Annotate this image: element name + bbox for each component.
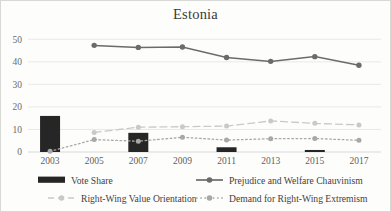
- x-tick-label: 2011: [217, 156, 236, 166]
- y-tick-label: 20: [13, 102, 23, 112]
- data-point-marker: [224, 138, 229, 143]
- y-tick-label: 40: [13, 57, 23, 67]
- data-point-marker: [312, 136, 317, 141]
- y-tick-label: 0: [17, 147, 22, 157]
- data-point-marker: [48, 149, 53, 154]
- data-point-marker: [312, 54, 317, 59]
- bar-2003: [40, 116, 60, 152]
- y-tick-label: 50: [13, 35, 23, 45]
- data-point-marker: [92, 130, 97, 135]
- data-point-marker: [136, 125, 141, 130]
- legend-item-prejudice-and-welfare-chauvinism[interactable]: Prejudice and Welfare Chauvinism: [196, 175, 363, 186]
- bar-2011: [217, 147, 237, 152]
- x-tick-label: 2007: [129, 156, 148, 166]
- line-series-group: [48, 43, 362, 154]
- data-point-marker: [136, 45, 141, 50]
- legend-label: Right-Wing Value Orientation: [81, 193, 197, 204]
- x-tick-label: 2003: [41, 156, 60, 166]
- legend-item-vote-share[interactable]: Vote Share: [38, 175, 113, 186]
- chart-container: Estonia 01020304050 20032005200720092011…: [0, 0, 391, 212]
- legend-swatch-marker: [59, 195, 65, 201]
- x-tick-label: 2017: [349, 156, 368, 166]
- legend-swatch-marker: [207, 177, 213, 183]
- x-tick-label: 2013: [261, 156, 280, 166]
- data-point-marker: [356, 62, 361, 67]
- legend-swatch-bar: [38, 177, 65, 183]
- data-point-marker: [224, 124, 229, 129]
- x-tick-label: 2015: [305, 156, 324, 166]
- data-point-marker: [312, 121, 317, 126]
- y-axis-tick-labels: 01020304050: [13, 35, 23, 158]
- data-point-marker: [180, 44, 185, 49]
- data-point-marker: [268, 136, 273, 141]
- legend-label: Vote Share: [71, 175, 113, 186]
- x-tick-label: 2005: [85, 156, 104, 166]
- legend-swatch-marker: [207, 195, 213, 201]
- bar-2015: [305, 150, 325, 152]
- x-tick-label: 2009: [173, 156, 192, 166]
- data-point-marker: [136, 139, 141, 144]
- y-tick-label: 30: [13, 80, 23, 90]
- data-point-marker: [92, 137, 97, 142]
- data-point-marker: [180, 135, 185, 140]
- legend-label: Demand for Right-Wing Extremism: [229, 193, 368, 204]
- data-point-marker: [180, 124, 185, 129]
- legend-item-right-wing-value-orientation[interactable]: Right-Wing Value Orientation: [48, 193, 197, 204]
- data-point-marker: [91, 43, 96, 48]
- chart-legend: Vote SharePrejudice and Welfare Chauvini…: [38, 175, 368, 204]
- legend-label: Prejudice and Welfare Chauvinism: [229, 175, 363, 186]
- data-point-marker: [224, 55, 229, 60]
- data-point-marker: [356, 138, 361, 143]
- chart-plot-area: 01020304050 2003200520072009201120132015…: [0, 0, 391, 212]
- gridlines: [28, 39, 381, 152]
- data-point-marker: [356, 122, 361, 127]
- x-axis-tick-labels: 20032005200720092011201320152017: [41, 156, 369, 166]
- y-tick-label: 10: [13, 125, 23, 135]
- data-point-marker: [268, 118, 273, 123]
- legend-item-demand-for-right-wing-extremism[interactable]: Demand for Right-Wing Extremism: [196, 193, 368, 204]
- data-point-marker: [268, 59, 273, 64]
